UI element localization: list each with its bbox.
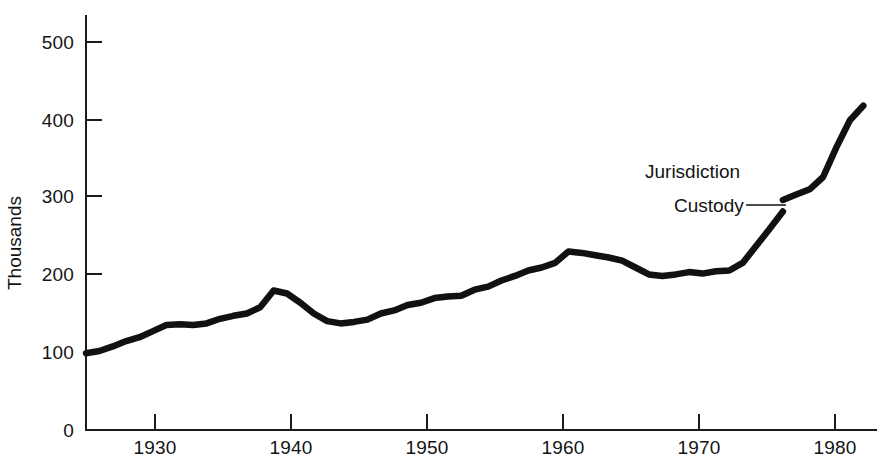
x-tick-label-1950: 1950 xyxy=(387,437,467,459)
line-chart-figure: Thousands 500 400 300 200 100 0 1930 194… xyxy=(0,0,882,460)
x-tick-label-1960: 1960 xyxy=(523,437,603,459)
y-tick-label-500: 500 xyxy=(18,32,74,54)
series-line-custody xyxy=(86,212,783,354)
x-axis-ticks xyxy=(155,414,835,430)
y-tick-label-200: 200 xyxy=(18,264,74,286)
y-axis-ticks xyxy=(86,42,102,352)
series-line-jurisdiction xyxy=(783,106,863,200)
x-tick-label-1980: 1980 xyxy=(795,437,875,459)
series-label-jurisdiction: Jurisdiction xyxy=(645,161,740,183)
y-tick-label-0: 0 xyxy=(18,420,74,442)
x-tick-label-1930: 1930 xyxy=(115,437,195,459)
y-tick-label-300: 300 xyxy=(18,186,74,208)
y-tick-label-400: 400 xyxy=(18,110,74,132)
y-tick-label-100: 100 xyxy=(18,342,74,364)
x-tick-label-1940: 1940 xyxy=(251,437,331,459)
x-tick-label-1970: 1970 xyxy=(659,437,739,459)
series-label-custody: Custody xyxy=(674,195,744,217)
chart-canvas xyxy=(0,0,882,460)
